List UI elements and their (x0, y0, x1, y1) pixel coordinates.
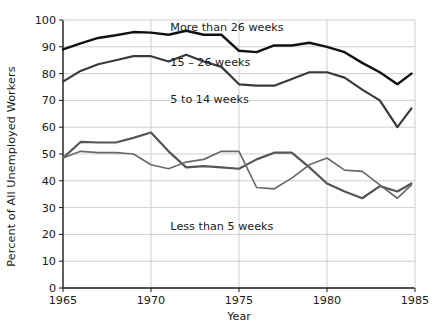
x-tick-label: 1985 (401, 294, 429, 307)
unemployment-duration-line-chart: Percent of All Unemployed Workers Year 0… (0, 0, 445, 333)
y-tick-label: 20 (42, 228, 56, 241)
y-tick-label: 10 (42, 255, 56, 268)
series-line-3 (63, 133, 411, 199)
y-tick-label: 50 (42, 148, 56, 161)
y-tick-label: 60 (42, 121, 56, 134)
y-tick-label: 70 (42, 94, 56, 107)
x-tick-label: 1980 (313, 294, 341, 307)
x-tick-label: 1965 (49, 294, 77, 307)
y-tick-label: 40 (42, 175, 56, 188)
y-axis-tick-labels: 0102030405060708090100 (35, 14, 56, 295)
y-tick-label: 100 (35, 14, 56, 27)
y-axis-title: Percent of All Unemployed Workers (0, 0, 22, 333)
x-tick-label: 1970 (137, 294, 165, 307)
series-label-3: 5 to 14 weeks (170, 93, 249, 106)
x-tick-label: 1975 (225, 294, 253, 307)
series-label-4: Less than 5 weeks (170, 220, 273, 233)
x-axis-title: Year (63, 310, 415, 323)
series-label-1: More than 26 weeks (170, 21, 283, 34)
y-tick-label: 90 (42, 41, 56, 54)
y-tick-label: 30 (42, 202, 56, 215)
y-tick-label: 80 (42, 68, 56, 81)
series-label-2: 15 – 26 weeks (170, 56, 250, 69)
series-line-4 (63, 151, 411, 198)
x-axis-tick-labels: 19651970197519801985 (49, 294, 429, 307)
chart-canvas: 0102030405060708090100 19651970197519801… (0, 0, 445, 333)
